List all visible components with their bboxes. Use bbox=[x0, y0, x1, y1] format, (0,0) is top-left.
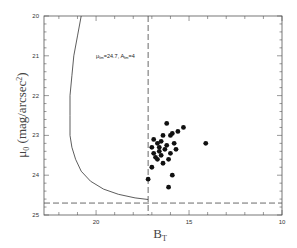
y-tick-label: 20 bbox=[32, 13, 39, 19]
y-tick-label: 21 bbox=[32, 53, 39, 59]
x-tick-label: 10 bbox=[279, 219, 286, 225]
data-point bbox=[166, 157, 171, 162]
y-tick-label: 24 bbox=[32, 172, 39, 178]
data-point bbox=[157, 149, 162, 154]
limit-curve bbox=[70, 16, 148, 200]
data-points bbox=[146, 121, 208, 189]
data-point bbox=[166, 185, 171, 190]
data-point bbox=[203, 141, 208, 146]
data-point bbox=[162, 147, 167, 152]
data-point bbox=[151, 151, 156, 156]
y-tick-label: 23 bbox=[32, 132, 39, 138]
y-axis-label-text: μ0 (mag/arcsec2) bbox=[14, 72, 31, 157]
axis-ticks bbox=[44, 16, 282, 215]
data-point bbox=[174, 147, 179, 152]
data-point bbox=[146, 177, 151, 182]
plot-frame bbox=[44, 16, 282, 215]
reference-lines bbox=[44, 16, 282, 215]
data-point bbox=[181, 125, 186, 130]
scatter-chart: 201510202122232425 μlim=24.7, Alim=4 BT … bbox=[0, 0, 297, 248]
data-point bbox=[168, 151, 173, 156]
data-point bbox=[164, 121, 169, 126]
x-tick-label: 15 bbox=[186, 219, 193, 225]
data-point bbox=[168, 133, 173, 138]
x-axis-label: BT bbox=[153, 226, 167, 243]
data-point bbox=[172, 141, 177, 146]
data-point bbox=[175, 129, 180, 134]
annotation-text: μlim=24.7, Alim=4 bbox=[96, 53, 135, 61]
plot-border bbox=[44, 16, 282, 215]
limit-curve-line bbox=[70, 16, 148, 200]
x-axis-label-text: BT bbox=[153, 226, 167, 243]
data-point bbox=[149, 145, 154, 150]
data-point bbox=[149, 165, 154, 170]
y-tick-label: 22 bbox=[32, 93, 39, 99]
data-point bbox=[159, 139, 164, 144]
data-point bbox=[170, 173, 175, 178]
y-tick-label: 25 bbox=[32, 212, 39, 218]
x-tick-label: 20 bbox=[93, 219, 100, 225]
data-point bbox=[161, 133, 166, 138]
y-axis-label: μ0 (mag/arcsec2) bbox=[14, 72, 31, 157]
curve-annotation: μlim=24.7, Alim=4 bbox=[96, 53, 135, 61]
data-point bbox=[151, 137, 156, 142]
data-point bbox=[161, 161, 166, 166]
